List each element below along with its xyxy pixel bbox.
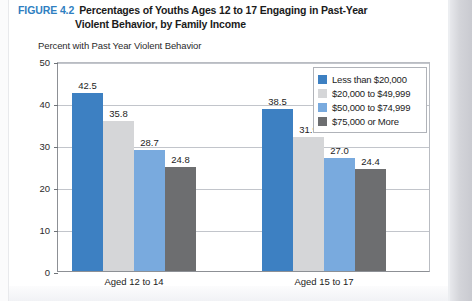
y-axis-tick [54,147,58,148]
chart-subtitle: Percent with Past Year Violent Behavior [38,40,201,51]
bar-value-label: 27.0 [330,145,349,156]
legend-swatch-icon [318,75,327,84]
y-axis-label: 0 [45,267,50,278]
bar-value-label: 28.7 [140,137,159,148]
figure-title-line1: Percentages of Youths Ages 12 to 17 Enga… [79,4,367,16]
page-left-edge [0,0,9,301]
x-axis-category-label: Aged 15 to 17 [294,276,353,287]
y-axis-label: 10 [39,225,50,236]
bar: 35.8 [103,121,134,271]
chart-legend: Less than $20,000$20,000 to $49,999$50,0… [313,67,427,133]
bar-value-label: 42.5 [78,80,97,91]
bar: 38.5 [262,109,293,271]
gridline [58,63,429,64]
figure-page: FIGURE 4.2Percentages of Youths Ages 12 … [0,0,472,301]
y-axis-tick [54,63,58,64]
legend-swatch-icon [318,103,327,112]
figure-title-line2: Violent Behavior, by Family Income [18,18,438,32]
x-axis-category-label: Aged 12 to 14 [104,276,163,287]
y-axis-label: 50 [39,57,50,68]
y-axis-label: 20 [39,183,50,194]
legend-label: $50,000 to $74,999 [332,102,410,113]
legend-label: $20,000 to $49,999 [332,88,410,99]
y-axis-tick [54,273,58,274]
page-bottom-shade [9,286,450,301]
bar: 24.8 [165,167,196,271]
bar: 31.9 [293,137,324,271]
page-right-margin [450,0,472,301]
bar: 27.0 [324,158,355,271]
y-axis-tick [54,231,58,232]
bar: 24.4 [355,169,386,271]
legend-label: Less than $20,000 [332,74,407,85]
legend-item[interactable]: $20,000 to $49,999 [318,86,421,100]
bar: 42.5 [72,93,103,272]
figure-header: FIGURE 4.2Percentages of Youths Ages 12 … [18,2,438,31]
legend-item[interactable]: $50,000 to $74,999 [318,100,421,114]
bar: 28.7 [134,150,165,271]
legend-swatch-icon [318,89,327,98]
legend-label: $75,000 or More [332,116,399,127]
legend-item[interactable]: $75,000 or More [318,114,421,128]
y-axis-label: 40 [39,99,50,110]
y-axis-label: 30 [39,141,50,152]
bar-value-label: 38.5 [268,96,287,107]
y-axis-tick [54,105,58,106]
bar-value-label: 35.8 [109,108,128,119]
y-axis-tick [54,189,58,190]
legend-swatch-icon [318,117,327,126]
bar-value-label: 24.8 [171,154,190,165]
bar-value-label: 24.4 [361,156,380,167]
figure-number: FIGURE 4.2 [18,4,74,16]
legend-item[interactable]: Less than $20,000 [318,72,421,86]
